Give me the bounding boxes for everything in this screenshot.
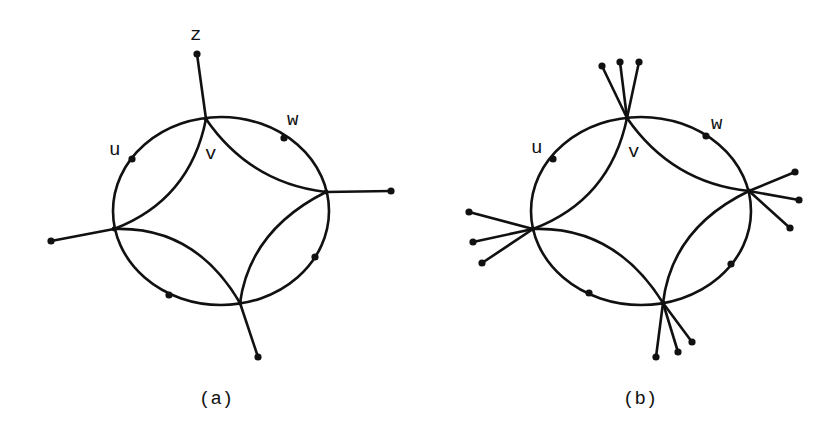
pendant-vertex-top-2-b xyxy=(616,58,623,65)
pendant-edge-right-1-b xyxy=(749,172,795,191)
graph-a: z u v w (a) xyxy=(47,24,394,410)
vertex-v-b xyxy=(625,116,630,121)
label-v-a: v xyxy=(205,143,216,165)
vertex-w-b xyxy=(702,132,709,139)
pendant-edge-left-1-b xyxy=(469,212,533,229)
pendant-vertex-top-1-b xyxy=(598,62,605,69)
hub-right-b xyxy=(747,189,752,194)
pendant-edge-left-a xyxy=(51,229,114,241)
inner-arc-top-left-a xyxy=(114,119,206,229)
cycle-vertex-lower-right-a xyxy=(311,253,318,260)
pendant-vertex-left-a xyxy=(47,237,54,244)
pendant-vertex-right-2-b xyxy=(795,196,802,203)
hub-bottom-b xyxy=(661,301,666,306)
pendant-vertex-right-1-b xyxy=(791,168,798,175)
inner-arc-top-left-b xyxy=(533,118,627,229)
caption-a: (a) xyxy=(199,388,233,410)
label-u-b: u xyxy=(531,137,542,159)
vertex-u-b xyxy=(549,155,556,162)
hub-left-a xyxy=(112,227,117,232)
pendant-vertex-right-a xyxy=(387,187,394,194)
cycle-vertex-lower-left-b xyxy=(585,289,592,296)
vertex-w-a xyxy=(280,134,287,141)
pendant-edge-z xyxy=(197,54,206,119)
hub-left-b xyxy=(531,227,536,232)
inner-arc-top-right-b xyxy=(627,118,749,191)
vertex-u-a xyxy=(128,155,135,162)
graph-b: u v w (b) xyxy=(465,58,802,410)
label-z: z xyxy=(190,24,201,46)
pendant-vertex-bottom-3-b xyxy=(688,338,695,345)
pendant-vertex-bottom-2-b xyxy=(674,348,681,355)
pendant-edge-right-a xyxy=(326,191,391,192)
label-w-b: w xyxy=(711,113,723,135)
hub-right-a xyxy=(324,190,329,195)
pendant-vertex-bottom-a xyxy=(254,353,261,360)
pendant-vertex-right-3-b xyxy=(786,224,793,231)
vertex-z xyxy=(193,50,200,57)
label-u-a: u xyxy=(109,139,120,161)
label-w-a: w xyxy=(287,109,299,131)
pendant-edge-bottom-2-b xyxy=(663,303,678,352)
pendant-vertex-left-2-b xyxy=(469,238,476,245)
pendant-edge-bottom-1-b xyxy=(656,303,663,357)
cycle-vertex-lower-left-a xyxy=(165,291,172,298)
vertex-v-a xyxy=(204,117,209,122)
pendant-edge-top-3-b xyxy=(627,62,639,118)
pendant-edge-bottom-a xyxy=(240,303,258,357)
graph-figure: z u v w (a) xyxy=(0,0,837,427)
label-v-b: v xyxy=(628,141,639,163)
caption-b: (b) xyxy=(623,388,657,410)
pendant-vertex-left-3-b xyxy=(478,259,485,266)
figure-canvas: z u v w (a) xyxy=(0,0,837,427)
pendant-edge-bottom-3-b xyxy=(663,303,692,342)
cycle-vertex-lower-right-b xyxy=(727,260,734,267)
pendant-vertex-bottom-1-b xyxy=(652,353,659,360)
hub-bottom-a xyxy=(238,301,243,306)
inner-arc-right-bottom-a xyxy=(240,192,326,303)
pendant-vertex-left-1-b xyxy=(465,208,472,215)
pendant-vertex-top-3-b xyxy=(635,58,642,65)
